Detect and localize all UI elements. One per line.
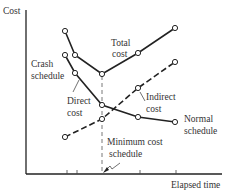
minimum-cost-label-2: schedule [109,149,142,159]
crash-schedule-label-1: Crash [31,59,53,69]
y-axis-label: Cost [3,6,21,16]
minimum-cost-label-1: Minimum cost [107,137,163,147]
indirect-cost-label-2: cost [146,104,162,114]
crash-schedule-label-2: schedule [31,71,64,81]
normal-schedule-label-1: Normal [184,114,213,124]
cost-time-diagram: Cost Elapsed time Crash schedule Total c… [0,0,231,193]
total-cost-label-1: Total [111,38,131,48]
normal-schedule-label-2: schedule [184,126,217,136]
direct-cost-label-1: Direct [67,96,91,106]
direct-cost-label-2: cost [67,108,83,118]
x-axis-label: Elapsed time [171,180,220,190]
total-cost-label-2: cost [112,49,128,59]
indirect-cost-label-1: Indirect [146,92,176,102]
